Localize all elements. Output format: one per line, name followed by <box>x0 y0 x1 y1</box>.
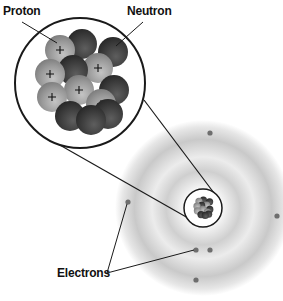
electrons-label: Electrons <box>57 266 110 280</box>
electron <box>207 247 212 252</box>
atom-diagram-svg <box>0 0 283 301</box>
electron <box>193 247 198 252</box>
neutron <box>202 212 209 219</box>
electron <box>193 277 198 282</box>
neutron-label: Neutron <box>127 4 172 18</box>
electron <box>274 213 279 218</box>
atom-diagram: Proton Neutron Electrons <box>0 0 283 301</box>
proton-label: Proton <box>3 4 40 18</box>
electron <box>207 130 212 135</box>
neutron <box>76 105 106 135</box>
electron <box>125 199 130 204</box>
